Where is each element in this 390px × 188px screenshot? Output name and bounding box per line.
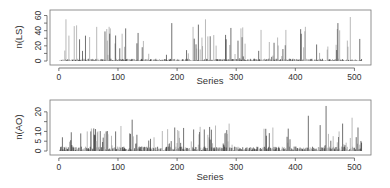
y-tick-label: 10 bbox=[33, 126, 43, 136]
x-tick-label: 300 bbox=[229, 72, 243, 82]
x-tick-label: 500 bbox=[347, 162, 361, 172]
spike-charts: 0204060 0100200300400500 n(LS) Series 05… bbox=[0, 0, 390, 188]
x-axis-title: Series bbox=[197, 75, 224, 86]
x-axis: 0100200300400500 bbox=[57, 158, 362, 172]
x-tick-label: 0 bbox=[57, 162, 62, 172]
panel-ao: 051020 0100200300400500 n(AO) Series bbox=[13, 100, 371, 182]
y-tick-label: 0 bbox=[33, 148, 43, 153]
x-tick-label: 400 bbox=[288, 72, 302, 82]
panel-ls: 0204060 0100200300400500 n(LS) Series bbox=[13, 10, 371, 86]
y-axis-title: n(LS) bbox=[13, 25, 24, 48]
x-tick-label: 500 bbox=[347, 72, 361, 82]
spike-series bbox=[59, 17, 361, 61]
x-axis-title: Series bbox=[197, 171, 224, 182]
y-axis: 051020 bbox=[33, 107, 47, 154]
y-tick-label: 40 bbox=[33, 26, 43, 36]
y-tick-label: 20 bbox=[33, 107, 43, 117]
spike-series bbox=[59, 106, 361, 151]
x-tick-label: 100 bbox=[111, 72, 125, 82]
y-tick-label: 0 bbox=[33, 58, 43, 63]
x-tick-label: 200 bbox=[170, 162, 184, 172]
y-axis: 0204060 bbox=[33, 11, 47, 64]
x-tick-label: 0 bbox=[57, 72, 62, 82]
x-tick-label: 200 bbox=[170, 72, 184, 82]
y-tick-label: 5 bbox=[33, 139, 43, 144]
y-tick-label: 20 bbox=[33, 41, 43, 51]
y-tick-label: 60 bbox=[33, 11, 43, 21]
x-tick-label: 100 bbox=[111, 162, 125, 172]
x-tick-label: 400 bbox=[288, 162, 302, 172]
y-axis-title: n(AO) bbox=[13, 114, 24, 139]
x-tick-label: 300 bbox=[229, 162, 243, 172]
